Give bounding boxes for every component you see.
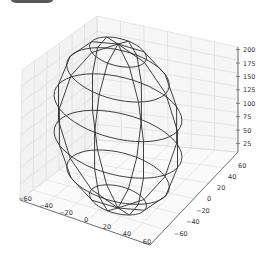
x-tick-label: −60 bbox=[18, 195, 32, 203]
y-tick-label: −20 bbox=[196, 207, 210, 215]
z-tick-label: 150 bbox=[243, 73, 255, 81]
3d-wireframe-chart: −60−40−200204060−60−40−20020406025507510… bbox=[0, 0, 265, 256]
y-tick-label: 0 bbox=[207, 195, 211, 203]
x-tick-label: 60 bbox=[143, 238, 151, 246]
y-tick-label: 20 bbox=[217, 184, 225, 192]
x-tick-label: 0 bbox=[84, 216, 88, 224]
y-tick-label: 60 bbox=[238, 162, 246, 170]
x-tick-label: −20 bbox=[59, 209, 73, 217]
x-tick-label: −40 bbox=[39, 202, 53, 210]
z-tick-label: 75 bbox=[243, 113, 251, 121]
y-tick-label: −60 bbox=[174, 230, 188, 238]
z-tick-label: 50 bbox=[243, 127, 251, 135]
y-tick-label: −40 bbox=[186, 218, 200, 226]
z-tick-label: 125 bbox=[243, 86, 255, 94]
z-tick-label: 175 bbox=[243, 60, 255, 68]
z-tick-label: 100 bbox=[243, 100, 255, 108]
z-tick-label: 200 bbox=[243, 46, 255, 54]
x-tick-label: 20 bbox=[103, 223, 111, 231]
x-tick-label: 40 bbox=[123, 230, 131, 238]
y-tick-label: 40 bbox=[228, 173, 236, 181]
z-tick-label: 25 bbox=[243, 140, 251, 148]
